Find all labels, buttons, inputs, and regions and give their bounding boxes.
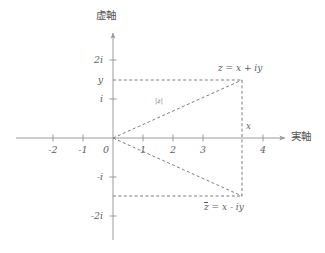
z-conjugate-base: z <box>204 203 209 212</box>
modulus-label: |z| <box>155 98 163 105</box>
x-tick-label-neg1: -1 <box>78 145 87 155</box>
x-tick-label-3: 3 <box>200 145 206 155</box>
x-tick-label-4: 4 <box>260 145 266 155</box>
complex-plane-figure: 虚軸 実軸 -2 -1 0 1 2 3 4 2i y i -i -2i x |z… <box>0 0 325 253</box>
x-tick-label-0: 0 <box>103 145 109 155</box>
x-tick-label-2: 2 <box>170 145 176 155</box>
point-label-z-conjugate: z = x - iy <box>204 203 244 212</box>
x-tick-label-neg2: -2 <box>48 145 57 155</box>
y-tick-label-neg-2i: -2i <box>91 211 103 221</box>
y-tick-label-neg-i: -i <box>97 172 103 182</box>
modulus-ray-z-conjugate <box>113 138 242 196</box>
figure-canvas <box>0 0 325 253</box>
y-tick-label-i: i <box>100 94 103 104</box>
x-tick-label-1: 1 <box>140 145 146 155</box>
overbar <box>204 202 208 203</box>
point-label-z: z = x + iy <box>218 64 262 73</box>
x-value-label: x <box>246 122 251 131</box>
real-axis-label: 実軸 <box>291 131 311 142</box>
modulus-ray-z <box>113 80 242 138</box>
y-value-label-y: y <box>98 75 103 85</box>
imaginary-axis-label: 虚軸 <box>96 10 116 21</box>
z-conjugate-rest: = x - iy <box>209 202 244 212</box>
y-tick-label-2i: 2i <box>94 55 103 65</box>
